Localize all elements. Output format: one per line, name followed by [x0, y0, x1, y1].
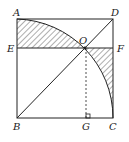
point-o [84, 47, 87, 50]
label-d: D [110, 7, 119, 18]
label-g: G [82, 121, 90, 132]
label-c: C [109, 121, 117, 132]
label-o: O [79, 35, 87, 46]
label-f: F [116, 43, 125, 54]
label-a: A [12, 7, 20, 18]
label-e: E [6, 43, 15, 54]
right-angle-mark [86, 114, 90, 118]
label-b: B [12, 121, 20, 132]
geometry-diagram: A D E F O B G C [0, 0, 129, 142]
shaded-region-right [85, 48, 113, 118]
shaded-region-upper-left [17, 19, 85, 48]
